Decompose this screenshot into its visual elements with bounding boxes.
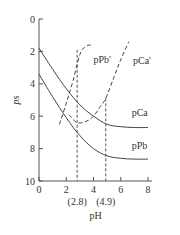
x-tick-label: 4 — [91, 184, 96, 195]
y-tick-label: 6 — [30, 111, 35, 122]
x-tick-label: 0 — [37, 184, 42, 195]
y-tick-label: 4 — [30, 78, 35, 89]
x-tick-label: 8 — [146, 184, 151, 195]
ticks: 024681002468 — [25, 14, 151, 196]
x-tick-label: 6 — [118, 184, 123, 195]
label-pPb: pPb — [132, 140, 148, 151]
chart: 024681002468 (2.8)(4.9) pHpspPb'pCa'pCap… — [0, 0, 180, 235]
label-pCa-prime: pCa' — [133, 55, 151, 66]
y-tick-label: 2 — [30, 46, 35, 57]
vline-label: (2.8) — [68, 196, 87, 208]
x-axis-label: pH — [89, 210, 101, 221]
label-pPb-prime: pPb' — [94, 54, 112, 65]
curve-ppb-prime — [59, 45, 90, 124]
y-tick-label: 8 — [30, 143, 35, 154]
y-axis-label: ps — [10, 95, 21, 105]
y-tick-label: 10 — [25, 176, 35, 187]
y-tick-label: 0 — [30, 14, 35, 25]
label-pCa: pCa — [132, 107, 149, 118]
axes — [39, 19, 152, 181]
x-tick-label: 2 — [64, 184, 69, 195]
vline-label: (4.9) — [96, 196, 115, 208]
